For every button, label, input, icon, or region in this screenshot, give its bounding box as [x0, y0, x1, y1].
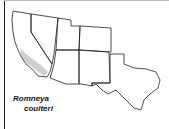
- species-label-epithet: coulteri: [24, 104, 53, 113]
- state-utah: [56, 18, 80, 50]
- state-california: [12, 11, 52, 77]
- state-arizona: [50, 50, 79, 84]
- state-colorado: [79, 26, 111, 52]
- species-label-genus: Romneya: [13, 94, 49, 103]
- range-map-figure: Romneya coulteri: [0, 0, 169, 129]
- state-nevada: [31, 14, 58, 64]
- state-new-mexico: [79, 50, 110, 86]
- state-texas: [92, 54, 160, 110]
